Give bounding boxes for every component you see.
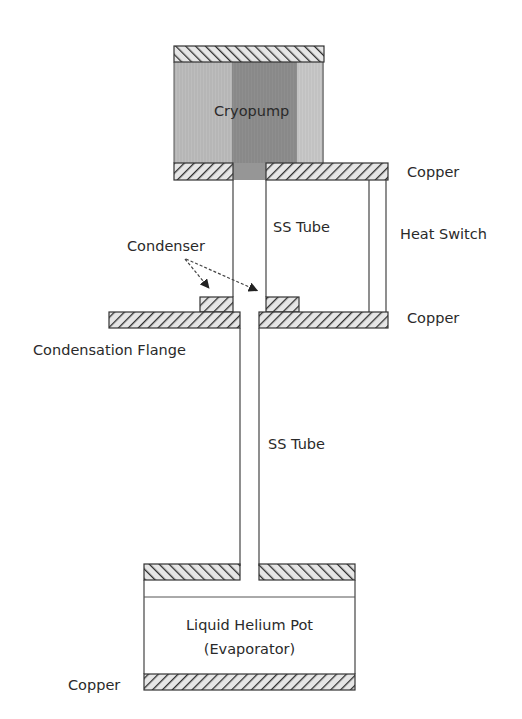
cryopump	[174, 62, 324, 180]
copper-mid-label: Copper	[407, 311, 459, 326]
copper-top-label: Copper	[407, 165, 459, 180]
condensation-flange-right	[259, 312, 388, 328]
pot-top-flange-right	[259, 564, 355, 580]
condenser-right	[266, 297, 299, 312]
condensation-flange-left	[109, 312, 240, 328]
ss-tube-lower-label: SS Tube	[268, 437, 325, 452]
pot-bottom-copper-plate	[144, 674, 355, 690]
condenser-label: Condenser	[127, 239, 205, 254]
heat-switch-label: Heat Switch	[400, 227, 487, 242]
copper-top-flange-right	[266, 163, 388, 180]
condensation-flange-label: Condensation Flange	[33, 343, 186, 358]
pot-top-flange-left	[144, 564, 240, 580]
pot-label-line1: Liquid Helium Pot	[144, 618, 355, 633]
ss-tube-upper-label: SS Tube	[273, 220, 330, 235]
condenser-left	[200, 297, 233, 312]
cryopump-top-flange	[174, 46, 324, 62]
copper-bottom-label: Copper	[68, 678, 120, 693]
cryopump-label: Cryopump	[214, 104, 289, 119]
condenser-arrows	[185, 259, 256, 290]
pot-label-line2: (Evaporator)	[144, 642, 355, 657]
copper-top-flange-left	[174, 163, 233, 180]
